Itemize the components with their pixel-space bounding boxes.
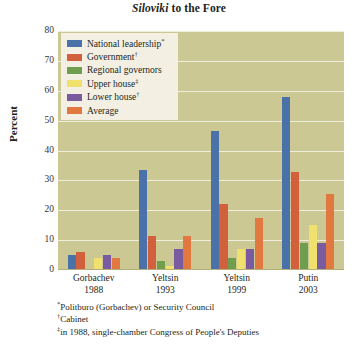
bar[interactable] xyxy=(174,249,182,270)
y-tick-label: 0 xyxy=(28,264,54,274)
y-axis-tick-labels: 01020304050607080 xyxy=(24,31,54,270)
x-axis-baseline xyxy=(58,269,344,270)
legend-item[interactable]: Average xyxy=(67,104,174,117)
legend-item-label: Government† xyxy=(87,52,138,62)
bar[interactable] xyxy=(317,243,325,270)
bar[interactable] xyxy=(76,252,84,270)
legend: National leadership*Government†Regional … xyxy=(61,33,178,120)
bar[interactable] xyxy=(219,204,227,270)
x-group-label: Yeltsin1999 xyxy=(201,273,273,296)
legend-swatch-icon xyxy=(67,80,82,87)
legend-footnote-marker: ‡ xyxy=(135,77,138,84)
legend-item-label: Regional governors xyxy=(87,65,162,75)
x-group-label: Yeltsin1993 xyxy=(130,273,202,296)
footnote: †Cabinet xyxy=(57,313,357,325)
x-group-label: Putin2003 xyxy=(273,273,345,296)
chart-title: Siloviki to the Fore xyxy=(0,2,358,14)
bar-group xyxy=(201,31,273,270)
legend-swatch-icon xyxy=(67,67,82,74)
legend-swatch-icon xyxy=(67,40,82,47)
y-tick-label: 20 xyxy=(28,204,54,214)
bar[interactable] xyxy=(255,218,263,270)
y-tick-label: 60 xyxy=(28,85,54,95)
bar[interactable] xyxy=(103,255,111,270)
x-group-label-name: Yeltsin xyxy=(224,273,251,283)
bar[interactable] xyxy=(68,255,76,270)
legend-item[interactable]: Upper house‡ xyxy=(67,77,174,90)
chart-title-rest: to the Fore xyxy=(169,2,227,14)
x-group-label-year: 1988 xyxy=(58,285,130,297)
legend-swatch-icon xyxy=(67,94,82,101)
bar[interactable] xyxy=(291,172,299,270)
x-group-label-name: Gorbachev xyxy=(73,273,115,283)
y-axis-title: Percent xyxy=(7,89,19,159)
legend-swatch-icon xyxy=(67,54,82,61)
bar[interactable] xyxy=(300,243,308,270)
bar[interactable] xyxy=(282,97,290,270)
bar[interactable] xyxy=(309,225,317,270)
legend-item-label: Upper house‡ xyxy=(87,79,139,89)
y-tick-label: 50 xyxy=(28,115,54,125)
footnotes: *Politburo (Gorbachev) or Security Counc… xyxy=(57,301,357,338)
bar[interactable] xyxy=(237,249,245,270)
x-group-label-name: Putin xyxy=(298,273,318,283)
x-group-label-name: Yeltsin xyxy=(152,273,179,283)
bar[interactable] xyxy=(148,236,156,270)
y-tick-label: 80 xyxy=(28,25,54,35)
legend-swatch-icon xyxy=(67,107,82,114)
y-tick-label: 10 xyxy=(28,234,54,244)
footnote-text: Cabinet xyxy=(60,314,88,324)
x-group-label: Gorbachev1988 xyxy=(58,273,130,296)
x-group-label-year: 1993 xyxy=(130,285,202,297)
legend-footnote-marker: * xyxy=(161,37,164,44)
legend-item-label: Average xyxy=(87,106,118,116)
legend-item[interactable]: Government† xyxy=(67,50,174,63)
footnote-text: Politburo (Gorbachev) or Security Counci… xyxy=(60,302,214,312)
bar[interactable] xyxy=(211,131,219,270)
x-group-label-year: 1999 xyxy=(201,285,273,297)
legend-item[interactable]: National leadership* xyxy=(67,37,174,50)
y-tick-label: 70 xyxy=(28,55,54,65)
legend-footnote-marker: † xyxy=(136,90,139,97)
legend-item[interactable]: Lower house† xyxy=(67,91,174,104)
y-tick-label: 40 xyxy=(28,145,54,155)
y-tick-label: 30 xyxy=(28,174,54,184)
chart-title-italic: Siloviki xyxy=(132,2,169,14)
bar-group xyxy=(273,31,345,270)
bar[interactable] xyxy=(246,249,254,270)
legend-item[interactable]: Regional governors xyxy=(67,64,174,77)
bar[interactable] xyxy=(139,170,147,270)
bar[interactable] xyxy=(326,194,334,270)
legend-item-label: Lower house† xyxy=(87,92,140,102)
footnote: ‡in 1988, single-chamber Congress of Peo… xyxy=(57,326,357,338)
bar[interactable] xyxy=(183,236,191,270)
footnote-text: in 1988, single-chamber Congress of Peop… xyxy=(60,327,259,337)
footnote: *Politburo (Gorbachev) or Security Counc… xyxy=(57,301,357,313)
legend-footnote-marker: † xyxy=(135,50,138,57)
x-group-label-year: 2003 xyxy=(273,285,345,297)
legend-item-label: National leadership* xyxy=(87,39,164,49)
